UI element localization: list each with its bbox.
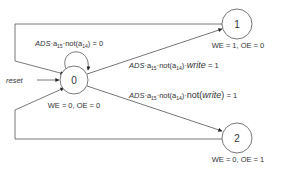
transition-to-2-label: ADS·a15·not(a14)·not(write) = 1 [128,90,237,101]
state-2-outputs: WE = 0, OE = 1 [212,155,265,164]
state-2: 2 WE = 0, OE = 1 [212,123,265,164]
state-1-label: 1 [234,19,240,30]
state-diagram: reset 0 WE = 0, OE = 0 1 WE = 1, OE = 0 … [0,0,282,177]
self-loop-label: ADS·a15·not(a14) = 0 [34,39,103,49]
state-1-outputs: WE = 1, OE = 0 [212,41,265,50]
state-0-label: 0 [71,75,77,86]
transition-to-1-label: ADS·a15·not(a14)·write = 1 [128,60,219,71]
state-0-outputs: WE = 0, OE = 0 [48,101,101,110]
state-2-label: 2 [234,133,240,144]
reset-label: reset [6,76,24,85]
reset-arrow: reset [6,76,59,85]
